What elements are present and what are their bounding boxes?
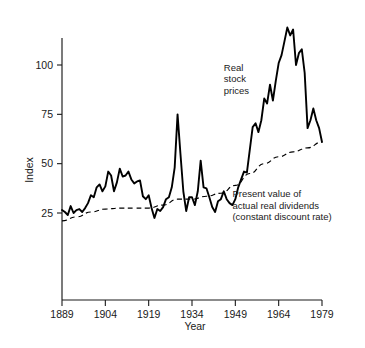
- y-tick-label-50: 50: [41, 157, 53, 169]
- real-stock-prices-label-line-3: prices: [224, 85, 250, 96]
- x-tick-label-1934: 1934: [180, 308, 204, 320]
- real-stock-prices-label-line-1: Real: [224, 62, 244, 73]
- real-stock-prices-label-line-2: stock: [224, 73, 246, 84]
- present-value-dividends-label: Present value ofactual real dividends(co…: [232, 188, 331, 222]
- x-tick-label-1889: 1889: [50, 308, 74, 320]
- x-tick-label-1919: 1919: [137, 308, 161, 320]
- x-axis-ticks: 1889190419191934194919641979: [50, 300, 334, 320]
- y-tick-label-75: 75: [41, 108, 53, 120]
- x-tick-label-1949: 1949: [224, 308, 248, 320]
- present-value-dividends-label-line-3: (constant discount rate): [232, 211, 331, 222]
- x-axis-title: Year: [184, 320, 206, 332]
- y-tick-label-100: 100: [35, 59, 53, 71]
- real-stock-prices-label: Realstockprices: [224, 62, 250, 96]
- chart-annotations: RealstockpricesPresent value ofactual re…: [224, 62, 332, 222]
- y-tick-label-25: 25: [41, 207, 53, 219]
- y-axis-title: Index: [23, 156, 35, 182]
- x-tick-label-1904: 1904: [94, 308, 118, 320]
- chart-figure: 255075100 1889190419191934194919641979 R…: [0, 0, 365, 348]
- x-tick-label-1964: 1964: [267, 308, 291, 320]
- x-tick-label-1979: 1979: [310, 308, 334, 320]
- present-value-dividends-label-line-1: Present value of: [232, 188, 301, 199]
- shiller-stock-price-dividend-chart: 255075100 1889190419191934194919641979 R…: [0, 0, 365, 348]
- present-value-dividends-label-line-2: actual real dividends: [232, 200, 319, 211]
- y-axis-ticks: 255075100: [35, 59, 62, 219]
